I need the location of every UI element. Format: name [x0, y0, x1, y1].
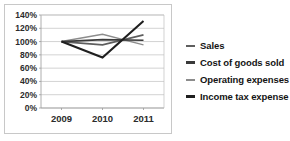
legend-item-label: Sales [200, 41, 224, 51]
chart-plot-panel: 0%20%40%60%80%100%120%140% 200920102011 [4, 4, 172, 134]
x-axis-tick-label: 2011 [133, 113, 154, 124]
legend-line-swatch-icon [186, 61, 195, 64]
y-axis-tick-label: 120% [15, 23, 37, 33]
legend-line-swatch-icon [186, 95, 195, 98]
axis-lines [39, 15, 164, 110]
legend-item-label: Cost of goods sold [200, 58, 284, 68]
y-axis-tick-label: 40% [20, 76, 37, 86]
y-axis-tick-label: 60% [20, 63, 37, 73]
y-axis-tick-label: 0% [25, 103, 38, 113]
legend-line-swatch-icon [186, 45, 195, 47]
legend-item-label: Operating expenses [200, 75, 289, 85]
gridlines-group [41, 15, 164, 108]
line-chart-svg: 0%20%40%60%80%100%120%140% 200920102011 [5, 5, 171, 133]
y-axis-tick-label: 80% [20, 50, 37, 60]
legend-item-label: Income tax expense [200, 92, 289, 102]
chart-legend: SalesCost of goods soldOperating expense… [186, 38, 288, 106]
y-axis-tick-label: 20% [20, 90, 37, 100]
y-axis-tick-labels: 0%20%40%60%80%100%120%140% [15, 10, 37, 113]
legend-line-swatch-icon [186, 79, 195, 81]
x-axis-tick-label: 2010 [92, 113, 113, 124]
x-axis-tick-labels: 200920102011 [51, 113, 155, 124]
y-axis-tick-label: 100% [15, 37, 37, 47]
legend-item[interactable]: Operating expenses [186, 72, 288, 87]
legend-item[interactable]: Sales [186, 38, 288, 53]
chart-figure: 0%20%40%60%80%100%120%140% 200920102011 … [0, 0, 290, 141]
x-axis-tick-label: 2009 [51, 113, 72, 124]
legend-item[interactable]: Income tax expense [186, 89, 288, 104]
legend-item[interactable]: Cost of goods sold [186, 55, 288, 70]
data-series-group [62, 21, 144, 58]
y-axis-tick-label: 140% [15, 10, 37, 20]
